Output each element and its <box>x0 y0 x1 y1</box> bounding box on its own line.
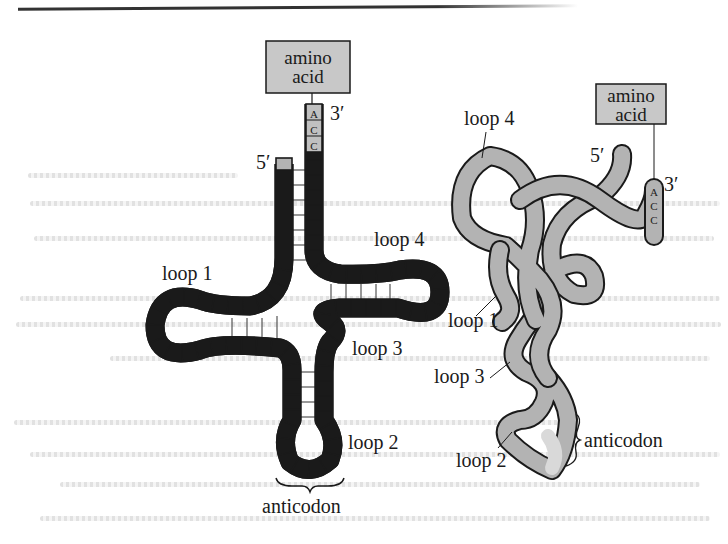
five-prime-label-3d: 5′ <box>590 145 604 165</box>
acceptor-base-c2: C <box>306 138 322 154</box>
amino-acid-label: amino acid <box>266 48 350 86</box>
svg-text:C: C <box>650 214 657 226</box>
svg-text:C: C <box>650 200 657 212</box>
cloverleaf-structure <box>155 41 440 470</box>
base-pair-rungs-acceptor <box>292 170 306 260</box>
loop1-label-3d: loop 1 <box>448 310 499 330</box>
amino-acid-line2: acid <box>266 67 350 86</box>
amino-acid-line1-3d: amino <box>596 86 666 105</box>
five-prime-label: 5′ <box>256 152 270 172</box>
amino-acid-line2-3d: acid <box>596 105 666 124</box>
anticodon-label: anticodon <box>262 496 341 516</box>
loop3-label-3d: loop 3 <box>434 366 485 386</box>
anticodon-brace <box>276 478 344 492</box>
acceptor-bases: A C C <box>306 106 322 154</box>
amino-acid-line1: amino <box>266 48 350 67</box>
loop2-label-3d: loop 2 <box>456 450 507 470</box>
anticodon-label-3d: anticodon <box>584 430 663 450</box>
acceptor-base-a-3d: A <box>650 186 658 198</box>
loop4-label: loop 4 <box>374 229 425 249</box>
acceptor-base-c1: C <box>306 122 322 138</box>
loop2-label: loop 2 <box>348 432 399 452</box>
three-prime-label: 3′ <box>330 103 344 123</box>
loop3-label: loop 3 <box>352 338 403 358</box>
amino-acid-label-3d: amino acid <box>596 86 666 124</box>
loop4-label-3d: loop 4 <box>464 108 515 128</box>
trna-diagram: A C C <box>0 0 728 544</box>
base-pair-rungs-loop1 <box>232 316 277 339</box>
loop1-label: loop 1 <box>162 263 213 283</box>
acceptor-base-a: A <box>306 106 322 122</box>
tertiary-structure: A C C <box>461 84 666 470</box>
three-prime-label-3d: 3′ <box>664 174 678 194</box>
base-pair-rungs-anticodon <box>300 372 316 417</box>
